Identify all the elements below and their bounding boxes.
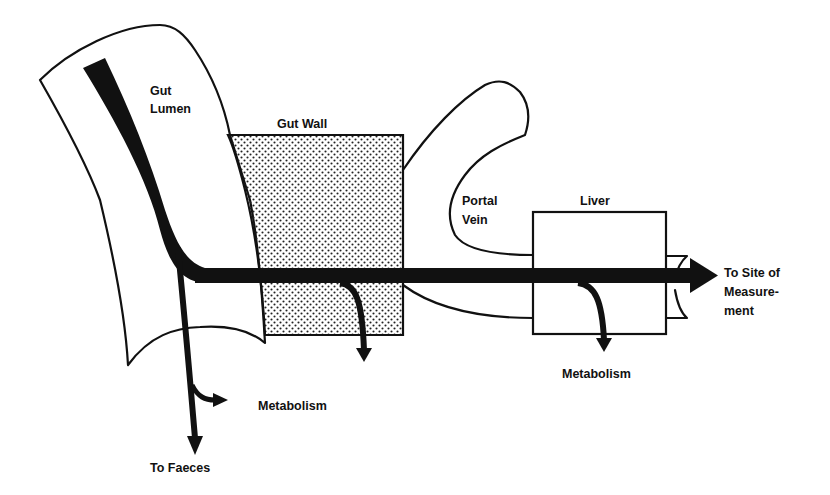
liver-metabolism-label: Metabolism (562, 367, 631, 381)
portal-vein-label-2: Vein (462, 213, 488, 227)
site-label-1: To Site of (724, 266, 781, 280)
hepatic-outflow-vessel (666, 256, 687, 318)
first-pass-metabolism-diagram: Gut Lumen Gut Wall Portal Vein Liver To … (0, 0, 830, 495)
liver-label: Liver (580, 194, 610, 208)
site-label-2: Measure- (724, 285, 779, 299)
gut-wall (228, 135, 403, 335)
gut-lumen-label-1: Gut (150, 84, 172, 98)
lumen-metabolism-label: Metabolism (258, 399, 327, 413)
faeces-label: To Faeces (150, 461, 210, 475)
portal-vein-label-1: Portal (462, 194, 497, 208)
gut-lumen-label-2: Lumen (150, 102, 191, 116)
gut-wall-label: Gut Wall (277, 117, 327, 131)
site-label-3: ment (724, 304, 755, 318)
